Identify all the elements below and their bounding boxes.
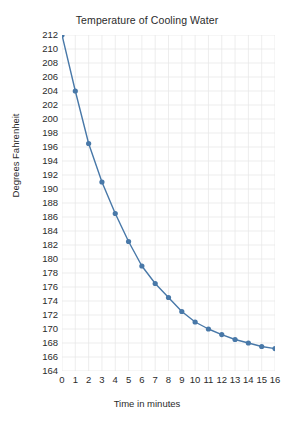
data-point — [113, 211, 118, 216]
data-point — [86, 141, 91, 146]
y-tick-label: 200 — [18, 114, 58, 124]
data-point — [259, 344, 264, 349]
data-point — [126, 239, 131, 244]
y-tick-label: 206 — [18, 72, 58, 82]
y-tick-label: 204 — [18, 86, 58, 96]
data-point — [219, 332, 224, 337]
data-point — [99, 179, 104, 184]
data-point — [272, 346, 275, 351]
data-point — [139, 263, 144, 268]
y-tick-label: 176 — [18, 282, 58, 292]
x-tick-label: 16 — [263, 375, 287, 385]
data-point — [179, 309, 184, 314]
plot-area — [62, 35, 275, 371]
y-tick-label: 194 — [18, 156, 58, 166]
y-tick-label: 180 — [18, 254, 58, 264]
y-axis-ticks: 2122102082062042022001981961941921901881… — [14, 0, 58, 429]
data-point — [166, 295, 171, 300]
data-point — [232, 337, 237, 342]
y-tick-label: 188 — [18, 198, 58, 208]
y-tick-label: 192 — [18, 170, 58, 180]
data-point — [246, 340, 251, 345]
y-tick-label: 166 — [18, 352, 58, 362]
y-tick-label: 186 — [18, 212, 58, 222]
y-tick-label: 168 — [18, 338, 58, 348]
y-tick-label: 190 — [18, 184, 58, 194]
y-tick-label: 184 — [18, 226, 58, 236]
y-tick-label: 174 — [18, 296, 58, 306]
y-tick-label: 212 — [18, 30, 58, 40]
data-point — [206, 326, 211, 331]
x-axis-ticks: 012345678910111213141516 — [62, 375, 294, 389]
y-tick-label: 202 — [18, 100, 58, 110]
y-tick-label: 208 — [18, 58, 58, 68]
y-tick-label: 172 — [18, 310, 58, 320]
data-point — [73, 88, 78, 93]
y-tick-label: 170 — [18, 324, 58, 334]
y-tick-label: 198 — [18, 128, 58, 138]
chart-figure: Temperature of Cooling Water Degrees Fah… — [0, 0, 294, 429]
y-tick-label: 182 — [18, 240, 58, 250]
y-tick-label: 210 — [18, 44, 58, 54]
y-tick-label: 178 — [18, 268, 58, 278]
y-tick-label: 196 — [18, 142, 58, 152]
line-chart-svg — [62, 35, 275, 371]
data-point — [193, 319, 198, 324]
data-point — [62, 35, 65, 38]
data-point — [153, 281, 158, 286]
x-axis-label: Time in minutes — [0, 398, 294, 409]
